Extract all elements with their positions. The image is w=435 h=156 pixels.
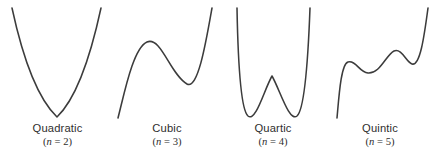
- caption-quartic-name: Quartic: [218, 122, 328, 134]
- degree-close-paren: ): [284, 136, 288, 147]
- caption-quadratic: Quadratic (n = 2): [0, 122, 115, 148]
- caption-quadratic-degree: (n = 2): [0, 136, 115, 147]
- degree-equals: =: [52, 136, 63, 147]
- polynomial-shapes-figure: Quadratic (n = 2) Cubic (n = 3) Quartic …: [0, 0, 435, 156]
- quadratic-curve: [12, 8, 101, 117]
- caption-quintic: Quintic (n = 5): [325, 122, 435, 148]
- quintic-curve: [337, 8, 428, 118]
- caption-quadratic-name: Quadratic: [0, 122, 115, 134]
- caption-quartic-degree: (n = 4): [218, 136, 328, 147]
- caption-cubic: Cubic (n = 3): [112, 122, 222, 148]
- caption-quartic: Quartic (n = 4): [218, 122, 328, 148]
- caption-cubic-name: Cubic: [112, 122, 222, 134]
- degree-close-paren: ): [178, 136, 182, 147]
- caption-quintic-name: Quintic: [325, 122, 435, 134]
- degree-equals: =: [161, 136, 172, 147]
- caption-quintic-degree: (n = 5): [325, 136, 435, 147]
- quartic-curve: [237, 8, 310, 117]
- degree-close-paren: ): [391, 136, 395, 147]
- degree-equals: =: [374, 136, 385, 147]
- cubic-curve: [118, 8, 212, 118]
- degree-equals: =: [267, 136, 278, 147]
- degree-close-paren: ): [68, 136, 72, 147]
- caption-cubic-degree: (n = 3): [112, 136, 222, 147]
